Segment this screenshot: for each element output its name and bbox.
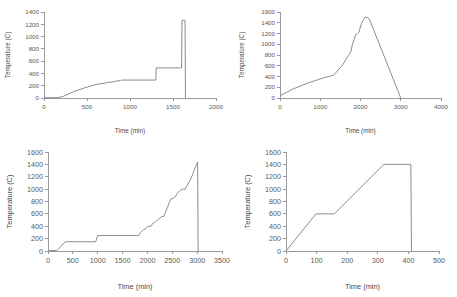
y-tick-label: 200 <box>29 82 40 89</box>
x-tick-label: 100 <box>311 256 323 265</box>
x-tick-label: 500 <box>433 256 445 265</box>
y-tick-label: 1200 <box>27 172 43 181</box>
x-tick-label: 4000 <box>434 103 448 110</box>
y-tick-label: 1400 <box>265 160 281 169</box>
x-tick-label: 3500 <box>214 256 230 265</box>
chart-top-left: 0200400600800100012001400050010001500200… <box>0 2 230 140</box>
figure-grid: 0200400600800100012001400050010001500200… <box>0 0 457 297</box>
x-tick-label: 1000 <box>313 103 327 110</box>
y-tick-label: 0 <box>36 94 40 101</box>
x-tick-label: 1500 <box>115 256 131 265</box>
chart-top-right: 0200400600800100012001400160001000200030… <box>232 2 457 140</box>
y-axis-title: Temperature (C) <box>238 32 246 79</box>
x-tick-label: 0 <box>278 103 282 110</box>
x-tick-label: 0 <box>42 103 46 110</box>
y-tick-label: 1600 <box>265 148 281 157</box>
y-tick-label: 1000 <box>25 33 39 40</box>
y-tick-label: 1200 <box>261 30 275 37</box>
x-tick-label: 1000 <box>90 256 106 265</box>
x-tick-label: 2500 <box>164 256 180 265</box>
series-line-thermal-profile <box>286 164 411 251</box>
y-tick-label: 400 <box>29 70 40 77</box>
y-tick-label: 600 <box>269 209 281 218</box>
x-axis-title: Time (min) <box>345 127 375 135</box>
y-axis-title: Temperature (C) <box>243 175 252 229</box>
y-tick-label: 1200 <box>265 172 281 181</box>
y-tick-label: 1600 <box>27 148 43 157</box>
chart-bottom-right: 0200400600800100012001400160001002003004… <box>238 142 457 297</box>
x-axis-title: Time (min) <box>115 127 145 135</box>
y-tick-label: 200 <box>265 83 276 90</box>
x-tick-label: 1500 <box>166 103 180 110</box>
series-line-thermal-profile <box>48 162 199 251</box>
series-line-thermal-profile <box>44 20 186 98</box>
x-tick-label: 1000 <box>123 103 137 110</box>
x-tick-label: 300 <box>372 256 384 265</box>
y-axis-title: Temperature (C) <box>4 32 12 79</box>
x-tick-label: 0 <box>46 256 50 265</box>
y-tick-label: 1000 <box>261 40 275 47</box>
y-tick-label: 200 <box>31 234 43 243</box>
chart-panel-top-left: 0200400600800100012001400050010001500200… <box>0 2 230 140</box>
x-tick-label: 500 <box>67 256 79 265</box>
y-tick-label: 400 <box>265 73 276 80</box>
y-tick-label: 800 <box>29 45 40 52</box>
y-tick-label: 800 <box>31 197 43 206</box>
y-tick-label: 1400 <box>261 19 275 26</box>
series-line-thermal-profile <box>280 17 401 98</box>
x-tick-label: 500 <box>82 103 93 110</box>
chart-panel-top-right: 0200400600800100012001400160001000200030… <box>232 2 457 140</box>
y-tick-label: 800 <box>265 51 276 58</box>
y-tick-label: 1000 <box>265 185 281 194</box>
chart-bottom-left: 0200400600800100012001400160005001000150… <box>0 142 240 297</box>
x-tick-label: 3000 <box>394 103 408 110</box>
y-tick-label: 400 <box>269 222 281 231</box>
y-tick-label: 0 <box>277 247 281 256</box>
x-tick-label: 2000 <box>139 256 155 265</box>
y-tick-label: 0 <box>39 247 43 256</box>
y-tick-label: 0 <box>272 94 276 101</box>
y-tick-label: 1400 <box>27 160 43 169</box>
y-tick-label: 600 <box>31 209 43 218</box>
y-axis-title: Temperature (C) <box>5 175 14 229</box>
y-tick-label: 600 <box>265 62 276 69</box>
x-tick-label: 3000 <box>189 256 205 265</box>
x-axis-title: Time (min) <box>345 282 380 291</box>
y-tick-label: 200 <box>269 234 281 243</box>
y-tick-label: 1200 <box>25 21 39 28</box>
y-tick-label: 1000 <box>27 185 43 194</box>
y-tick-label: 400 <box>31 222 43 231</box>
y-tick-label: 1400 <box>25 8 39 15</box>
x-tick-label: 2000 <box>209 103 223 110</box>
x-axis-title: Time (min) <box>117 282 152 291</box>
chart-panel-bottom-left: 0200400600800100012001400160005001000150… <box>0 142 240 297</box>
y-tick-label: 1600 <box>261 8 275 15</box>
x-tick-label: 200 <box>341 256 353 265</box>
x-tick-label: 0 <box>284 256 288 265</box>
x-tick-label: 400 <box>402 256 414 265</box>
y-tick-label: 600 <box>29 57 40 64</box>
x-tick-label: 2000 <box>354 103 368 110</box>
y-tick-label: 800 <box>269 197 281 206</box>
chart-panel-bottom-right: 0200400600800100012001400160001002003004… <box>238 142 457 297</box>
